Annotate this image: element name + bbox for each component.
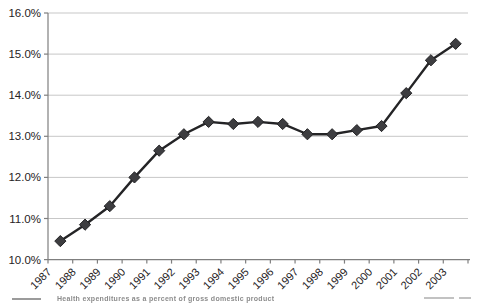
x-tick-label: 1996 xyxy=(250,266,276,292)
data-point-marker xyxy=(252,116,263,127)
data-point-marker xyxy=(351,125,362,136)
x-tick-label: 2003 xyxy=(423,266,449,292)
data-point-marker xyxy=(327,129,338,140)
caption-artifact-right xyxy=(459,297,471,299)
x-tick-label: 1997 xyxy=(275,266,301,292)
chart-screenshot: 16.0%15.0%14.0%13.0%12.0%11.0%10.0%19871… xyxy=(0,0,479,305)
data-point-marker xyxy=(277,118,288,129)
x-tick-label: 1989 xyxy=(77,266,103,292)
x-tick-label: 1998 xyxy=(299,266,325,292)
x-tick-label: 1994 xyxy=(201,266,227,292)
x-tick-label: 1987 xyxy=(28,266,54,292)
y-tick-label: 15.0% xyxy=(8,48,41,60)
y-tick-label: 10.0% xyxy=(8,254,41,266)
x-tick-label: 1992 xyxy=(151,266,177,292)
line-chart: 16.0%15.0%14.0%13.0%12.0%11.0%10.0%19871… xyxy=(0,0,479,305)
data-line xyxy=(60,44,455,241)
y-tick-label: 13.0% xyxy=(8,130,41,142)
x-tick-label: 2000 xyxy=(349,266,375,292)
caption-rule xyxy=(12,298,41,300)
data-point-marker xyxy=(203,116,214,127)
x-tick-label: 2001 xyxy=(373,266,399,292)
x-tick-label: 1991 xyxy=(126,266,152,292)
x-tick-label: 1999 xyxy=(324,266,350,292)
y-tick-label: 14.0% xyxy=(8,89,41,101)
caption-artifact-left xyxy=(424,297,454,299)
y-tick-label: 16.0% xyxy=(8,7,41,19)
x-tick-label: 1990 xyxy=(102,266,128,292)
x-tick-label: 1995 xyxy=(225,266,251,292)
x-tick-label: 1993 xyxy=(176,266,202,292)
x-tick-label: 1988 xyxy=(52,266,78,292)
y-tick-label: 12.0% xyxy=(8,171,41,183)
data-point-marker xyxy=(228,118,239,129)
data-point-marker xyxy=(302,129,313,140)
x-tick-label: 2002 xyxy=(398,266,424,292)
y-tick-label: 11.0% xyxy=(9,213,41,225)
cropped-caption: Health expenditures as a percent of gros… xyxy=(57,295,274,302)
